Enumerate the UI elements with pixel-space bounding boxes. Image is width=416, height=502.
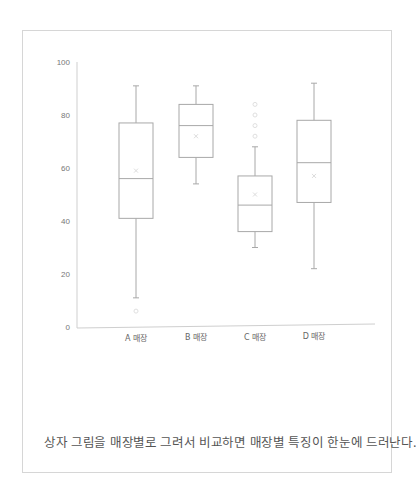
y-tick-label: 80	[61, 111, 70, 120]
outlier-point	[253, 113, 257, 117]
y-tick-label: 100	[57, 58, 71, 67]
category-label: D 매장	[303, 331, 327, 341]
category-label: C 매장	[244, 332, 267, 342]
y-tick-label: 60	[61, 164, 70, 173]
mean-marker	[194, 134, 198, 138]
mean-marker	[312, 174, 316, 178]
mean-marker	[134, 169, 138, 173]
y-tick-label: 0	[66, 323, 71, 332]
figure-caption: 상자 그림을 매장별로 그려서 비교하면 매장별 특징이 한눈에 드러난다.	[44, 432, 416, 451]
box	[238, 176, 272, 232]
category-label: B 매장	[185, 332, 208, 342]
box	[179, 104, 213, 157]
outlier-point	[134, 309, 138, 313]
category-label: A 매장	[125, 333, 148, 343]
outlier-point	[253, 124, 257, 128]
mean-marker	[253, 193, 257, 197]
outlier-point	[253, 134, 257, 138]
x-axis	[77, 324, 375, 328]
outlier-point	[253, 102, 257, 106]
y-tick-label: 40	[61, 217, 70, 226]
y-tick-label: 20	[61, 270, 70, 279]
box	[297, 120, 331, 202]
